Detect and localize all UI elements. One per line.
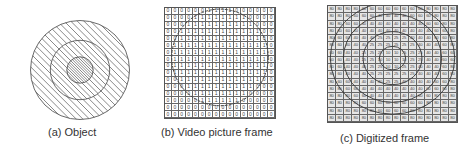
grid-cell: 80 — [425, 115, 433, 122]
grid-cell: 0 — [213, 104, 220, 111]
grid-cell: 0 — [268, 36, 275, 43]
grid-cell: 1 — [234, 36, 241, 43]
grid-cell: 1 — [254, 49, 261, 56]
grid-cell: 40 — [368, 93, 376, 100]
grid-cell: 25 — [376, 71, 384, 78]
grid-cell: 60 — [336, 42, 344, 49]
grid-cell: 80 — [441, 86, 449, 93]
grid-cell: 0 — [179, 111, 186, 118]
grid-cell: 0 — [268, 49, 275, 56]
grid-cell: 1 — [206, 97, 213, 104]
grid-cell: 1 — [241, 70, 248, 77]
grid-cell: 1 — [186, 56, 193, 63]
grid-cell: 1 — [220, 36, 227, 43]
grid-cell: 1 — [213, 63, 220, 70]
grid-cell: 60 — [449, 57, 457, 64]
grid-cell: 1 — [206, 49, 213, 56]
grid-cell: 1 — [227, 84, 234, 91]
grid-cell: 1 — [234, 49, 241, 56]
grid-cell: 25 — [417, 50, 425, 57]
grid-cell: 1 — [199, 29, 206, 36]
grid-cell: 80 — [441, 6, 449, 13]
grid-cell: 80 — [441, 115, 449, 122]
grid-cell: 0 — [186, 104, 193, 111]
grid-cell: 25 — [384, 35, 392, 42]
grid-cell: 80 — [393, 115, 401, 122]
grid-cell: 0 — [186, 91, 193, 98]
grid-cell: 0 — [248, 111, 255, 118]
grid-cell: 80 — [449, 13, 457, 20]
grid-cell: 1 — [193, 70, 200, 77]
grid-cell: 0 — [248, 104, 255, 111]
grid-cell: 80 — [449, 108, 457, 115]
grid-cell: 0 — [193, 104, 200, 111]
grid-cell: 0 — [165, 111, 172, 118]
grid-cell: 0 — [234, 104, 241, 111]
grid-cell: 1 — [213, 97, 220, 104]
grid-cell: 60 — [360, 6, 368, 13]
grid-cell: 1 — [234, 22, 241, 29]
grid-cell: 0 — [172, 104, 179, 111]
grid-cell: 25 — [417, 57, 425, 64]
grid-cell: 1 — [199, 91, 206, 98]
grid-cell: 1 — [220, 8, 227, 15]
grid-cell: 40 — [384, 93, 392, 100]
grid-cell: 10 — [393, 64, 401, 71]
grid-cell: 0 — [172, 77, 179, 84]
grid-cell: 25 — [393, 79, 401, 86]
grid-cell: 0 — [254, 22, 261, 29]
grid-cell: 40 — [417, 79, 425, 86]
grid-cell: 80 — [425, 108, 433, 115]
grid-cell: 80 — [441, 13, 449, 20]
grid-cell: 40 — [360, 79, 368, 86]
grid-cell: 0 — [268, 15, 275, 22]
grid-cell: 0 — [165, 70, 172, 77]
grid-cell: 40 — [433, 42, 441, 49]
grid-cell: 25 — [401, 42, 409, 49]
grid-cell: 25 — [409, 50, 417, 57]
grid-cell: 1 — [206, 15, 213, 22]
grid-cell: 1 — [234, 70, 241, 77]
grid-cell: 1 — [199, 70, 206, 77]
grid-cell: 0 — [220, 104, 227, 111]
grid-cell: 1 — [193, 22, 200, 29]
grid-cell: 1 — [261, 56, 268, 63]
grid-cell: 60 — [441, 57, 449, 64]
grid-cell: 40 — [368, 79, 376, 86]
grid-cell: 80 — [449, 115, 457, 122]
grid-cell: 60 — [425, 21, 433, 28]
grid-cell: 1 — [179, 42, 186, 49]
grid-cell: 80 — [328, 100, 336, 107]
grid-cell: 1 — [248, 56, 255, 63]
grid-cell: 60 — [352, 93, 360, 100]
panel-object — [25, 15, 135, 125]
grid-cell: 25 — [376, 50, 384, 57]
grid-cell: 80 — [344, 6, 352, 13]
grid-cell: 1 — [172, 42, 179, 49]
grid-cell: 0 — [186, 8, 193, 15]
grid-cell: 0 — [172, 15, 179, 22]
grid-cell: 80 — [449, 79, 457, 86]
grid-cell: 0 — [186, 111, 193, 118]
grid-cell: 25 — [360, 50, 368, 57]
grid-cell: 0 — [254, 84, 261, 91]
grid-cell: 0 — [165, 56, 172, 63]
grid-cell: 80 — [433, 100, 441, 107]
grid-cell: 0 — [165, 36, 172, 43]
grid-cell: 60 — [328, 57, 336, 64]
grid-cell: 0 — [172, 97, 179, 104]
grid-cell: 40 — [417, 86, 425, 93]
grid-cell: 80 — [336, 6, 344, 13]
grid-cell: 80 — [433, 6, 441, 13]
grid-cell: 60 — [336, 79, 344, 86]
grid-cell: 40 — [384, 28, 392, 35]
grid-cell: 60 — [368, 100, 376, 107]
grid-cell: 60 — [441, 79, 449, 86]
grid-cell: 80 — [360, 115, 368, 122]
grid-cell: 40 — [376, 13, 384, 20]
grid-cell: 60 — [401, 6, 409, 13]
grid-cell: 0 — [172, 111, 179, 118]
grid-cell: 1 — [248, 42, 255, 49]
grid-cell: 25 — [376, 42, 384, 49]
grid-cell: 1 — [234, 42, 241, 49]
